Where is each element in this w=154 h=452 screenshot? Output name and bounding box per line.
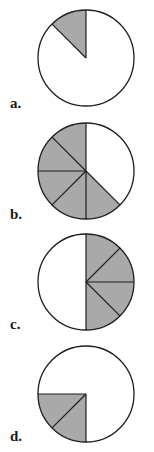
fraction-circles-figure: a. b. c. d. <box>0 0 154 452</box>
fraction-circle-b <box>38 123 134 219</box>
option-label-d: d. <box>10 428 22 445</box>
option-label-a: a. <box>10 95 21 112</box>
fraction-circle-d <box>38 346 134 442</box>
option-label-b: b. <box>10 206 22 223</box>
option-label-c: c. <box>10 316 20 333</box>
circles-canvas <box>0 0 154 452</box>
fraction-circle-c <box>38 234 134 330</box>
fraction-circle-a <box>38 10 134 106</box>
